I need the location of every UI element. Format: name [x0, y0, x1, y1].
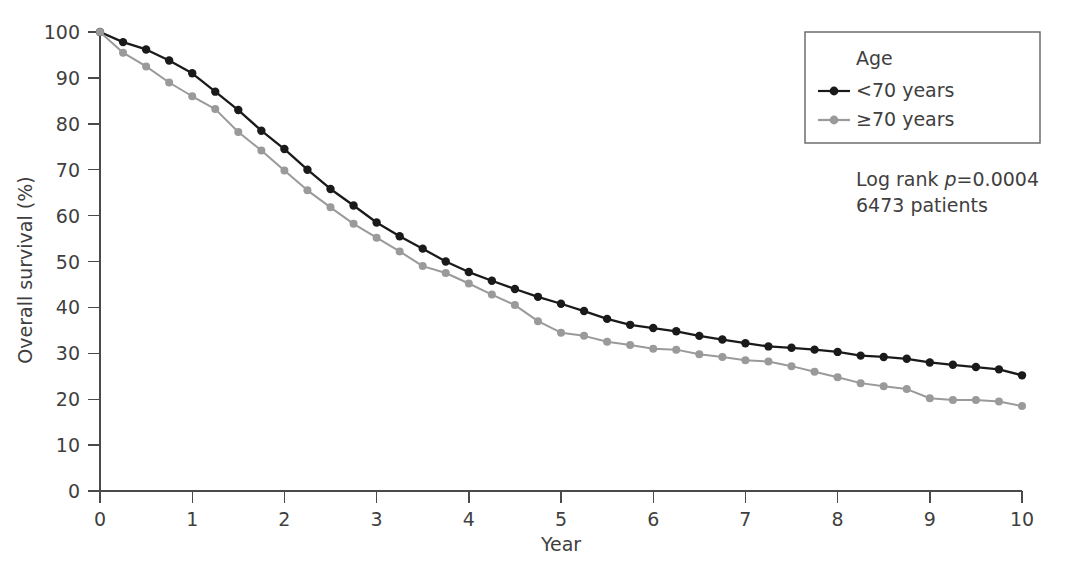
data-point-marker [603, 338, 611, 346]
chart-annotations: Log rank p=0.0004 6473 patients [856, 168, 1039, 216]
data-point-marker [972, 363, 980, 371]
data-point-marker [626, 321, 634, 329]
data-point-marker [534, 293, 542, 301]
data-point-marker [326, 185, 334, 193]
x-tick-label: 4 [463, 508, 475, 530]
data-point-marker [327, 203, 335, 211]
data-point-marker [949, 396, 957, 404]
data-point-marker [465, 280, 473, 288]
data-point-marker [280, 167, 288, 175]
data-point-marker [165, 78, 173, 86]
data-point-marker [511, 301, 519, 309]
y-tick-label: 30 [56, 342, 80, 364]
y-tick-label: 10 [56, 434, 80, 456]
data-point-marker [511, 285, 519, 293]
data-point-marker [1018, 371, 1026, 379]
data-point-marker [119, 38, 127, 46]
legend-swatch-marker [830, 116, 839, 125]
data-point-marker [949, 361, 957, 369]
overall-survival-line-chart: 0102030405060708090100 012345678910 Over… [0, 0, 1071, 571]
data-point-marker [833, 348, 841, 356]
data-point-marker [626, 341, 634, 349]
y-tick-label: 100 [44, 21, 80, 43]
data-point-marker [395, 232, 403, 240]
data-point-marker [557, 329, 565, 337]
log-rank-annotation: Log rank p=0.0004 [856, 168, 1039, 190]
data-point-marker [96, 28, 104, 36]
data-point-marker [350, 220, 358, 228]
data-point-marker [857, 379, 865, 387]
data-point-marker [695, 350, 703, 358]
data-point-marker [349, 201, 357, 209]
data-point-marker [880, 353, 888, 361]
data-point-marker [534, 317, 542, 325]
y-tick-label: 20 [56, 388, 80, 410]
x-axis-title: Year [540, 533, 581, 555]
data-point-marker [649, 324, 657, 332]
x-tick-label: 8 [832, 508, 844, 530]
x-tick-label: 3 [371, 508, 383, 530]
data-point-marker [1018, 402, 1026, 410]
patient-count-annotation: 6473 patients [856, 194, 988, 216]
data-point-marker [280, 145, 288, 153]
data-point-marker [234, 106, 242, 114]
data-point-marker [373, 234, 381, 242]
data-point-marker [764, 342, 772, 350]
data-point-marker [672, 346, 680, 354]
legend-title: Age [856, 47, 893, 69]
data-point-marker [856, 351, 864, 359]
data-point-marker [211, 87, 219, 95]
data-point-marker [603, 315, 611, 323]
x-tick-label: 7 [739, 508, 751, 530]
y-tick-label: 50 [56, 251, 80, 273]
data-point-marker [303, 166, 311, 174]
y-tick-label: 70 [56, 159, 80, 181]
data-point-marker [580, 332, 588, 340]
data-point-marker [188, 69, 196, 77]
chart-legend: Age <70 years≥70 years [805, 32, 1040, 143]
data-point-marker [142, 62, 150, 70]
y-tick-label: 80 [56, 113, 80, 135]
data-point-marker [972, 396, 980, 404]
data-point-marker [488, 291, 496, 299]
data-point-marker [995, 398, 1003, 406]
x-tick-label: 0 [94, 508, 106, 530]
data-point-marker [396, 247, 404, 255]
data-point-marker [188, 92, 196, 100]
x-tick-label: 2 [278, 508, 290, 530]
data-point-marker [672, 327, 680, 335]
x-tick-label: 10 [1010, 508, 1034, 530]
data-point-marker [903, 385, 911, 393]
data-point-marker [926, 394, 934, 402]
data-point-marker [880, 382, 888, 390]
data-point-marker [649, 345, 657, 353]
data-point-marker [741, 356, 749, 364]
data-point-marker [419, 262, 427, 270]
data-point-marker [695, 332, 703, 340]
data-point-marker [787, 344, 795, 352]
x-tick-label: 1 [186, 508, 198, 530]
data-point-marker [926, 358, 934, 366]
survival-chart-figure: 0102030405060708090100 012345678910 Over… [0, 0, 1071, 571]
data-point-marker [465, 268, 473, 276]
data-point-marker [810, 345, 818, 353]
y-tick-label: 90 [56, 67, 80, 89]
x-axis-ticks: 012345678910 [94, 491, 1034, 530]
data-point-marker [372, 218, 380, 226]
data-point-marker [303, 186, 311, 194]
data-point-marker [903, 355, 911, 363]
data-point-marker [995, 365, 1003, 373]
y-tick-label: 60 [56, 205, 80, 227]
y-tick-label: 0 [68, 480, 80, 502]
data-point-marker [718, 353, 726, 361]
data-point-marker [788, 362, 796, 370]
legend-label: <70 years [856, 79, 954, 101]
legend-swatch-marker [830, 87, 839, 96]
data-point-marker [811, 368, 819, 376]
x-tick-label: 9 [924, 508, 936, 530]
data-point-marker [419, 244, 427, 252]
data-point-marker [488, 277, 496, 285]
data-point-marker [257, 146, 265, 154]
data-point-marker [442, 257, 450, 265]
data-point-marker [142, 45, 150, 53]
